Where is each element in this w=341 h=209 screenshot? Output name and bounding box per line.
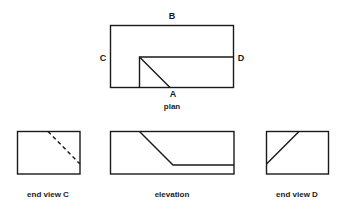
end-view-c-outline <box>18 132 81 175</box>
end-view-c: end view C <box>18 132 81 200</box>
plan-label-a: A <box>170 89 177 99</box>
elevation-slope-edge <box>140 132 235 166</box>
plan-diagonal-edge <box>140 57 171 88</box>
end-view-d-visible-edge <box>267 132 300 165</box>
plan-label-d: D <box>238 53 245 63</box>
end-view-d: end view D <box>267 132 329 200</box>
plan-view: B C D A plan <box>100 11 245 111</box>
plan-caption: plan <box>164 102 181 111</box>
end-view-d-caption: end view D <box>276 190 318 199</box>
plan-label-c: C <box>100 53 107 63</box>
end-view-c-hidden-edge <box>48 132 80 165</box>
end-view-d-outline <box>267 132 329 175</box>
elevation-outline <box>111 132 235 175</box>
end-view-c-caption: end view C <box>27 190 69 199</box>
elevation-view: elevation <box>111 132 235 200</box>
plan-inner-step <box>140 57 234 88</box>
orthographic-projection-diagram: B C D A plan end view C elevation end vi… <box>0 0 341 209</box>
plan-label-b: B <box>169 11 176 21</box>
elevation-caption: elevation <box>155 190 190 199</box>
